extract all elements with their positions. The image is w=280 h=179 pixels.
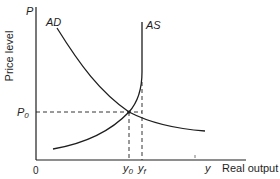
ad-label: AD xyxy=(45,16,61,28)
as-label: AS xyxy=(145,19,161,31)
y0-label-sub: 0 xyxy=(129,167,134,176)
yf-label: yf xyxy=(137,162,147,176)
y0-label: y0 xyxy=(122,162,134,176)
ad-curve xyxy=(57,28,205,131)
x-axis-label: Real output xyxy=(222,162,278,174)
equilibrium-point xyxy=(127,110,130,113)
ad-as-diagram: Price level P 0 y Real output AD AS P0 y… xyxy=(0,0,280,179)
origin-label: 0 xyxy=(33,165,39,176)
p0-label: P0 xyxy=(17,106,29,120)
x-axis-symbol: y xyxy=(204,162,212,174)
p0-label-sub: 0 xyxy=(24,111,29,120)
y-axis-symbol: P xyxy=(26,5,34,17)
yf-label-sub: f xyxy=(144,167,147,176)
y-axis-label: Price level xyxy=(3,31,15,82)
